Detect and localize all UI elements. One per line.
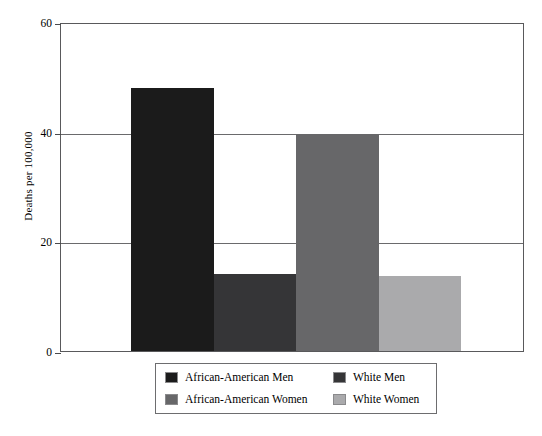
- legend-item: African-American Men: [165, 372, 333, 384]
- bar: [379, 276, 462, 351]
- legend-swatch-icon: [165, 394, 178, 405]
- y-tick-label-0: 0: [46, 347, 52, 359]
- y-tick-mark-0: [55, 353, 61, 354]
- legend-item-label: African-American Women: [185, 394, 307, 406]
- bar: [131, 88, 214, 351]
- y-axis-title: Deaths per 100,000: [22, 86, 34, 266]
- legend-swatch-icon: [333, 372, 346, 383]
- legend-item: White Women: [333, 394, 447, 406]
- bars-group: [61, 24, 523, 351]
- legend-swatch-icon: [165, 372, 178, 383]
- legend-item-label: African-American Men: [185, 372, 293, 384]
- legend-item-label: White Women: [353, 394, 419, 406]
- bar: [214, 274, 297, 351]
- legend-item-label: White Men: [353, 372, 405, 384]
- chart-legend: African-American MenWhite MenAfrican-Ame…: [155, 363, 437, 414]
- plot-area: 0204060: [60, 23, 524, 352]
- legend-swatch-icon: [333, 394, 346, 405]
- y-tick-label-40: 40: [41, 128, 53, 140]
- y-tick-label-60: 60: [41, 18, 53, 30]
- legend-item: African-American Women: [165, 394, 333, 406]
- legend-item: White Men: [333, 372, 447, 384]
- bar-chart-figure: Deaths per 100,000 0204060 African-Ameri…: [0, 0, 542, 436]
- bar: [296, 134, 379, 351]
- y-tick-label-20: 20: [41, 238, 53, 250]
